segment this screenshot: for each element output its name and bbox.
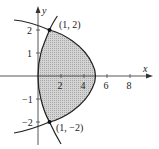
x-tick-label-8: 8 [127,80,132,91]
point-1-neg2 [48,120,52,124]
y-tick-label-1: 1 [27,48,32,59]
x-tick-label-6: 6 [104,80,109,91]
y-tick-label-neg2: −2 [22,117,33,128]
y-tick-label-2: 2 [27,25,32,36]
x-axis-arrow-icon [146,74,153,79]
x-tick-label-4: 4 [81,80,86,91]
region-diagram: x y 2 4 6 8 2 1 −1 −2 (1, 2) (1, −2) [0,0,159,149]
x-tick-label-2: 2 [58,80,63,91]
x-axis-label: x [142,63,148,74]
point-label-1-2: (1, 2) [59,19,81,31]
y-axis-arrow-icon [36,6,41,13]
point-label-1-neg2: (1, −2) [56,122,83,134]
y-axis-label: y [41,5,47,16]
point-1-2 [48,28,52,32]
y-tick-label-neg1: −1 [22,94,33,105]
